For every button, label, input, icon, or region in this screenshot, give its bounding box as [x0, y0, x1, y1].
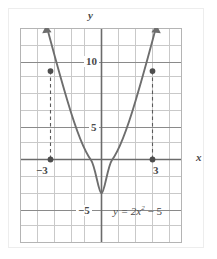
x-tick-label-3: 3: [153, 165, 159, 176]
graph-figure: y x 10 5 −5 −3 3 y = 2x2 − 5: [0, 0, 217, 259]
point-3-0: [150, 157, 156, 163]
y-tick-label-5: 5: [89, 122, 99, 133]
parabola-left-arrowhead: [42, 28, 51, 33]
point-3-13: [150, 68, 156, 74]
y-tick-label-neg5: −5: [76, 205, 92, 216]
equation-annotation: y = 2x2 − 5: [113, 205, 162, 217]
parabola-right-arrowhead: [151, 28, 160, 33]
y-axis-label: y: [88, 10, 93, 21]
point-neg3-13: [48, 68, 54, 74]
x-tick-label-neg3: −3: [36, 165, 48, 176]
y-tick-label-10: 10: [84, 56, 99, 67]
point-neg3-0: [48, 157, 54, 163]
parabola-curve: [47, 28, 156, 193]
x-axis-label: x: [196, 152, 202, 163]
